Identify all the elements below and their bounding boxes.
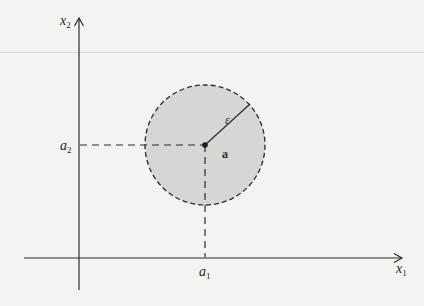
a2-coordinate-label: a2: [60, 139, 72, 155]
point-a-label: a: [222, 148, 228, 160]
epsilon-label: ε: [225, 114, 230, 126]
point-a-dot: [202, 142, 208, 148]
x2-axis-label: x2: [60, 14, 71, 30]
x1-axis-label: x1: [396, 262, 407, 278]
a1-coordinate-label: a1: [199, 265, 211, 281]
